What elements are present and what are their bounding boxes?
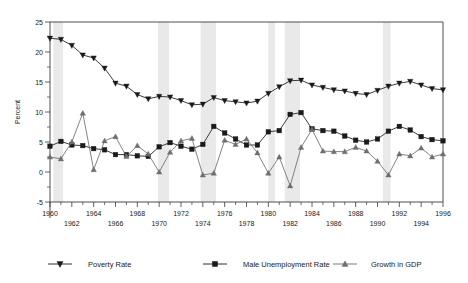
data-point-marker (113, 134, 118, 139)
x-tick-label: 1986 (326, 220, 342, 227)
data-point-marker (386, 129, 391, 134)
data-point-marker (321, 128, 326, 133)
data-point-marker (91, 146, 96, 151)
data-point-marker (113, 152, 118, 157)
x-tick-label: 1980 (261, 210, 277, 217)
y-tick-label: 5 (39, 139, 43, 146)
y-tick-label: -5 (37, 199, 43, 206)
recession-band (53, 22, 63, 202)
data-point-marker (418, 145, 423, 150)
recession-band (158, 22, 169, 202)
legend-label: Male Unemployment Rate (243, 260, 330, 269)
data-point-marker (189, 136, 194, 141)
data-point-marker (397, 151, 402, 156)
x-tick-label: 1968 (130, 210, 146, 217)
x-tick-label: 1994 (413, 220, 429, 227)
data-point-marker (57, 262, 63, 268)
y-axis-title: Percent (14, 100, 21, 124)
x-tick-label: 1984 (304, 210, 320, 217)
data-point-marker (397, 124, 402, 129)
data-point-marker (440, 88, 445, 93)
x-tick-label: 1966 (108, 220, 124, 227)
recession-bands (53, 22, 390, 202)
x-tick-label: 1976 (217, 210, 233, 217)
data-point-marker (59, 139, 64, 144)
data-point-marker (135, 143, 140, 148)
data-point-marker (244, 136, 249, 141)
legend: Poverty RateMale Unemployment RateGrowth… (0, 245, 468, 283)
data-point-marker (266, 130, 271, 135)
x-tick-label: 1962 (64, 220, 80, 227)
y-tick-label: 0 (39, 169, 43, 176)
data-point-marker (211, 124, 216, 129)
y-tick-label: 15 (35, 79, 43, 86)
data-point-marker (342, 134, 347, 139)
x-tick-label: 1970 (151, 220, 167, 227)
data-point-marker (320, 148, 325, 153)
chart-root: -50510152025 196019641968197219761980198… (0, 0, 468, 283)
x-axis-ticks (50, 202, 443, 207)
data-point-marker (299, 110, 304, 115)
data-point-marker (201, 142, 206, 147)
legend-label: Poverty Rate (88, 260, 131, 269)
data-point-marker (80, 110, 85, 115)
data-point-marker (277, 85, 282, 90)
data-point-marker (91, 167, 96, 172)
y-tick-label: 20 (35, 49, 43, 56)
legend-item-male-unemployment-rate[interactable]: Male Unemployment Rate (203, 260, 330, 269)
x-tick-label: 1996 (435, 210, 451, 217)
x-tick-label: 1990 (370, 220, 386, 227)
data-point-marker (353, 145, 358, 150)
x-tick-label: 1978 (239, 220, 255, 227)
data-point-marker (48, 144, 53, 149)
data-point-marker (277, 128, 282, 133)
data-point-marker (255, 143, 260, 148)
y-axis-ticks (45, 22, 50, 202)
x-tick-label: 1992 (392, 210, 408, 217)
x-tick-label: 1960 (42, 210, 58, 217)
y-axis-tick-labels: -50510152025 (35, 19, 43, 206)
x-tick-label: 1972 (173, 210, 189, 217)
data-point-marker (364, 93, 369, 98)
data-point-marker (102, 148, 107, 153)
legend-item-poverty-rate[interactable]: Poverty Rate (48, 260, 131, 269)
data-point-marker (80, 143, 85, 148)
data-point-marker (146, 97, 151, 102)
data-point-marker (353, 138, 358, 143)
legend-label: Growth in GDP (371, 260, 421, 269)
data-point-marker (375, 137, 380, 142)
chart-svg: -50510152025 196019641968197219761980198… (0, 0, 468, 245)
plot-area-container: -50510152025 196019641968197219761980198… (0, 0, 468, 245)
data-point-marker (222, 137, 227, 142)
data-point-marker (408, 128, 413, 133)
x-tick-label: 1982 (282, 220, 298, 227)
data-point-marker (244, 101, 249, 106)
data-point-marker (190, 147, 195, 152)
y-tick-label: 10 (35, 109, 43, 116)
data-point-marker (189, 103, 194, 108)
legend-svg: Poverty RateMale Unemployment RateGrowth… (0, 245, 468, 283)
data-point-marker (222, 131, 227, 136)
legend-item-growth-in-gdp[interactable]: Growth in GDP (333, 260, 421, 269)
data-point-marker (69, 43, 74, 48)
data-point-marker (135, 154, 140, 159)
data-point-marker (430, 137, 435, 142)
data-point-marker (179, 144, 184, 149)
data-point-marker (440, 151, 445, 156)
data-point-marker (288, 112, 293, 117)
data-point-marker (124, 84, 129, 89)
y-axis-title-text: Percent (14, 100, 21, 124)
data-point-marker (212, 261, 217, 266)
data-point-marker (244, 143, 249, 148)
data-point-marker (233, 137, 238, 142)
x-axis-tick-labels: 1960196419681972197619801984198819921996… (42, 210, 451, 227)
data-point-marker (69, 139, 74, 144)
y-tick-label: 25 (35, 19, 43, 26)
data-point-marker (157, 145, 162, 150)
data-point-marker (364, 140, 369, 145)
data-point-marker (146, 151, 151, 156)
data-point-marker (441, 139, 446, 144)
data-point-marker (168, 140, 173, 145)
data-point-marker (419, 134, 424, 139)
x-tick-label: 1988 (348, 210, 364, 217)
